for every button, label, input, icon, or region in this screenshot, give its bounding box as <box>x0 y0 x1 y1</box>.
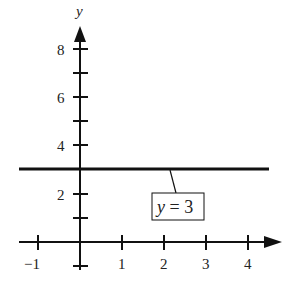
x-tick-label-4: 4 <box>244 256 252 272</box>
annotation-label: y = 3 <box>155 197 193 217</box>
x-tick-label-2: 2 <box>160 256 168 272</box>
y-tick-label-2: 2 <box>57 187 65 203</box>
y-tick-label-4: 4 <box>57 138 65 154</box>
x-tick-label-1: 1 <box>118 256 126 272</box>
annotation-var: y <box>155 197 165 217</box>
x-tick-label-neg1: −1 <box>24 256 40 272</box>
y-tick-label-6: 6 <box>57 90 65 106</box>
x-tick-label-3: 3 <box>202 256 210 272</box>
annotation-leader <box>170 170 176 193</box>
y-axis-label: y <box>74 3 83 19</box>
y-axis-arrow-icon <box>74 26 86 42</box>
annotation-rest: = 3 <box>165 197 193 217</box>
x-axis-arrow-icon <box>264 236 282 248</box>
graph: y = 3 y 8 6 4 2 −1 1 2 3 4 <box>0 0 284 286</box>
y-tick-label-8: 8 <box>57 42 65 58</box>
